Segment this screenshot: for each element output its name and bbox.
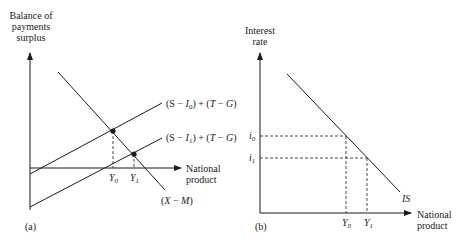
panel-b-y0-tick: Y0 [342, 217, 351, 228]
equilibrium-point-1 [131, 151, 136, 156]
ylabel-line-1: Interest [240, 25, 280, 36]
panel-a-y1-tick: Y1 [130, 172, 139, 183]
panel-b-xlabel: National product [417, 209, 451, 231]
xlabel-line-1: National [417, 209, 451, 220]
panel-b-y1-tick: Y1 [364, 217, 373, 228]
is-label: IS [402, 193, 410, 204]
ylabel-line-2: rate [240, 36, 280, 47]
xlabel-line-2: product [417, 220, 451, 231]
xlabel-line-1: National [186, 163, 220, 174]
xm-label: (X − M) [161, 195, 193, 206]
i0-tick: i0 [249, 130, 255, 141]
is-curve [287, 74, 400, 192]
ylabel-line-2: payments [6, 21, 56, 32]
ylabel-line-1: Balance of [6, 10, 56, 21]
equilibrium-point-0 [110, 128, 115, 133]
panel-a-xlabel: National product [186, 163, 220, 185]
panel-a-y0-tick: Y0 [109, 172, 118, 183]
i1-tick: i1 [249, 152, 255, 163]
s-i1-line [30, 138, 162, 207]
xlabel-line-2: product [186, 174, 220, 185]
panel-a-caption: (a) [25, 221, 36, 232]
panel-b-plot [260, 53, 411, 213]
ylabel-line-3: surplus [6, 32, 56, 43]
diagram-canvas [0, 0, 466, 247]
panel-b-ylabel: Interest rate [240, 25, 280, 47]
s-i0-label: (S − I0) + (T − G) [166, 98, 236, 109]
s-i1-label: (S − I1) + (T − G) [166, 132, 236, 143]
panel-b-caption: (b) [255, 221, 267, 232]
panel-a-plot [30, 53, 181, 210]
panel-a-ylabel: Balance of payments surplus [6, 10, 56, 43]
